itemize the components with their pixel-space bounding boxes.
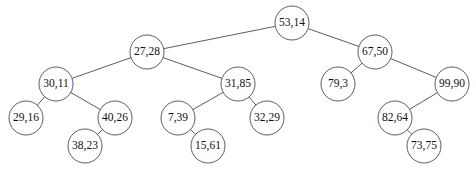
node-label-n32: 32,29 [254, 111, 280, 124]
tree-edge-n40-n38 [97, 130, 102, 135]
tree-node-n7[interactable]: 7,39 [161, 101, 195, 135]
node-label-n82: 82,64 [382, 111, 408, 124]
tree-node-n99[interactable]: 99,90 [435, 67, 469, 101]
tree-node-n15[interactable]: 15,61 [191, 129, 225, 163]
tree-node-n29[interactable]: 29,16 [9, 101, 43, 135]
tree-edge-n30-n40 [71, 92, 101, 109]
tree-edge-n53-n27 [164, 26, 276, 48]
tree-edge-n27-n30 [72, 58, 131, 79]
node-label-n27: 27,28 [134, 45, 160, 58]
node-label-n31: 31,85 [225, 77, 251, 90]
node-label-n30: 30,11 [43, 77, 69, 90]
tree-edge-n7-n15 [190, 130, 195, 135]
tree-node-n40[interactable]: 40,26 [98, 101, 132, 135]
tree-edge-n99-n82 [410, 93, 438, 110]
tree-node-n53[interactable]: 53,14 [275, 6, 309, 40]
tree-edge-n82-n73 [407, 130, 412, 134]
tree-node-n32[interactable]: 32,29 [250, 101, 284, 135]
tree-edge-n27-n31 [163, 58, 222, 79]
node-label-n40: 40,26 [102, 111, 128, 124]
tree-node-n38[interactable]: 38,23 [68, 129, 102, 163]
tree-node-n30[interactable]: 30,11 [39, 67, 73, 101]
node-label-n15: 15,61 [195, 139, 221, 152]
tree-node-n73[interactable]: 73,75 [407, 129, 441, 163]
tree-edge-n67-n79 [351, 63, 362, 73]
tree-diagram: 53,1427,2867,5030,1131,8579,399,9029,164… [0, 0, 476, 179]
tree-node-n82[interactable]: 82,64 [378, 101, 412, 135]
node-label-n38: 38,23 [72, 139, 98, 152]
tree-diagram-canvas: 53,1427,2867,5030,1131,8579,399,9029,164… [0, 0, 476, 179]
node-label-n79: 79,3 [328, 77, 348, 90]
node-layer: 53,1427,2867,5030,1131,8579,399,9029,164… [9, 6, 469, 163]
tree-edge-n67-n99 [391, 59, 437, 78]
tree-node-n79[interactable]: 79,3 [321, 67, 355, 101]
tree-edge-n31-n32 [249, 97, 256, 105]
tree-node-n27[interactable]: 27,28 [130, 35, 164, 69]
tree-edge-n53-n67 [308, 29, 359, 47]
tree-node-n31[interactable]: 31,85 [221, 67, 255, 101]
node-label-n99: 99,90 [439, 77, 465, 90]
tree-node-n67[interactable]: 67,50 [358, 35, 392, 69]
node-label-n73: 73,75 [411, 139, 437, 152]
node-label-n29: 29,16 [13, 111, 39, 124]
node-label-n7: 7,39 [168, 111, 188, 124]
tree-edge-n31-n7 [193, 92, 223, 109]
tree-edge-n30-n29 [37, 97, 45, 106]
node-label-n53: 53,14 [279, 16, 305, 29]
node-label-n67: 67,50 [362, 45, 388, 58]
